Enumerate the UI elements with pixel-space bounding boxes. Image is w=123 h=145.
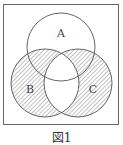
venn-diagram: A B C <box>0 0 123 126</box>
shaded-region-b-xor-c <box>0 0 123 126</box>
label-c: C <box>89 83 97 96</box>
label-a: A <box>56 27 66 40</box>
label-b: B <box>26 83 34 96</box>
figure-caption: 図1 <box>0 128 123 145</box>
